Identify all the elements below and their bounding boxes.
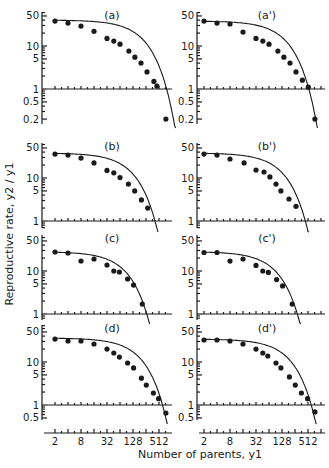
data-point xyxy=(201,337,206,342)
data-point xyxy=(274,277,279,282)
y-tick-label: 10 xyxy=(26,173,39,184)
panel-label: (c') xyxy=(258,232,276,245)
data-point xyxy=(300,78,305,83)
panel-c-prime: 501051(c') xyxy=(181,232,325,324)
panel-d-prime: 5010510.5(d')2832128512 xyxy=(178,322,325,447)
data-point xyxy=(265,353,270,358)
data-point xyxy=(132,188,137,193)
data-point xyxy=(163,117,168,122)
data-point xyxy=(240,29,245,34)
data-point xyxy=(156,396,161,401)
data-point xyxy=(312,117,317,122)
panel-label: (b) xyxy=(104,140,120,153)
data-point xyxy=(275,49,280,54)
data-point xyxy=(227,21,232,26)
x-tick-label: 128 xyxy=(123,436,142,447)
fit-curve xyxy=(55,20,176,128)
data-point xyxy=(227,259,232,264)
data-point xyxy=(260,350,265,355)
data-point xyxy=(125,276,130,281)
panel-c: 501051(c) xyxy=(26,232,172,324)
data-point xyxy=(104,262,109,267)
y-tick-label: 10 xyxy=(181,357,194,368)
data-point xyxy=(65,153,70,158)
y-tick-label: 0.5 xyxy=(23,96,39,107)
data-point xyxy=(52,152,57,157)
x-tick-label: 32 xyxy=(250,436,263,447)
data-point xyxy=(253,168,258,173)
data-point xyxy=(65,21,70,26)
y-tick-label: 10 xyxy=(181,41,194,52)
data-point xyxy=(52,249,57,254)
fit-curve xyxy=(55,338,167,424)
data-point xyxy=(299,390,304,395)
data-point xyxy=(278,365,283,370)
data-point xyxy=(287,374,292,379)
data-point xyxy=(117,175,122,180)
data-point xyxy=(306,85,311,90)
data-point xyxy=(240,341,245,346)
y-tick-label: 50 xyxy=(26,235,39,246)
data-point xyxy=(214,21,219,26)
data-point xyxy=(260,268,265,273)
y-tick-label: 5 xyxy=(33,185,39,196)
data-point xyxy=(273,182,278,187)
data-point xyxy=(163,410,168,415)
y-tick-label: 50 xyxy=(26,326,39,337)
data-point xyxy=(91,160,96,165)
panel-label: (a') xyxy=(258,9,276,22)
data-point xyxy=(139,376,144,381)
data-point xyxy=(154,84,159,89)
data-point xyxy=(290,302,295,307)
y-tick-label: 10 xyxy=(26,357,39,368)
panel-a-prime: 5010510.50.2(a') xyxy=(178,9,325,128)
fit-curve xyxy=(204,21,317,128)
data-point xyxy=(139,197,144,202)
panel-label: (a) xyxy=(104,9,119,22)
y-tick-label: 10 xyxy=(181,266,194,277)
data-point xyxy=(242,160,247,165)
panel-label: (b') xyxy=(258,140,277,153)
data-point xyxy=(111,170,116,175)
data-point xyxy=(281,55,286,60)
data-point xyxy=(117,42,122,47)
fit-curve xyxy=(204,339,316,424)
data-point xyxy=(151,79,156,84)
data-point xyxy=(280,283,285,288)
data-point xyxy=(305,396,310,401)
data-point xyxy=(111,350,116,355)
data-point xyxy=(253,347,258,352)
x-tick-label: 8 xyxy=(227,436,233,447)
data-point xyxy=(131,365,136,370)
data-point xyxy=(104,36,109,41)
data-point xyxy=(144,69,149,74)
data-point xyxy=(293,69,298,74)
data-point xyxy=(287,61,292,66)
y-tick-label: 1 xyxy=(188,216,194,227)
y-tick-label: 1 xyxy=(188,309,194,320)
data-point xyxy=(65,250,70,255)
data-point xyxy=(214,250,219,255)
y-tick-label: 1 xyxy=(33,309,39,320)
chart: Reproductive rate, y2 / y1 Number of par… xyxy=(0,0,329,468)
panel-b-prime: 501051(b') xyxy=(181,140,325,232)
data-point xyxy=(201,250,206,255)
data-point xyxy=(126,182,131,187)
data-point xyxy=(227,338,232,343)
y-tick-label: 50 xyxy=(181,326,194,337)
x-tick-label: 2 xyxy=(201,436,207,447)
y-tick-label: 50 xyxy=(26,142,39,153)
panel-label: (d) xyxy=(104,322,120,335)
data-point xyxy=(91,29,96,34)
data-point xyxy=(78,338,83,343)
y-tick-label: 5 xyxy=(188,369,194,380)
y-tick-label: 10 xyxy=(26,266,39,277)
data-point xyxy=(117,355,122,360)
data-point xyxy=(312,409,317,414)
y-tick-label: 5 xyxy=(33,53,39,64)
x-tick-label: 128 xyxy=(272,436,291,447)
data-point xyxy=(145,206,150,211)
data-point xyxy=(91,256,96,261)
fit-curve xyxy=(55,252,150,324)
data-point xyxy=(201,152,206,157)
